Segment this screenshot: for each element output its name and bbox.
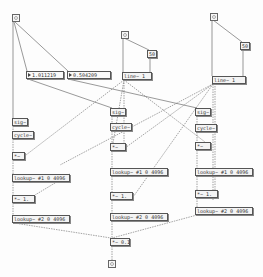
- lookup2-object-left[interactable]: lookup~ #2 0 4096: [12, 215, 70, 223]
- multiply-object-right[interactable]: *~: [195, 142, 211, 150]
- bang-icon: [123, 33, 127, 37]
- patch-cords: [0, 0, 263, 277]
- cycle-object-right[interactable]: cycle~: [195, 124, 217, 132]
- bang-right[interactable]: [210, 13, 218, 21]
- lookup1-object-middle[interactable]: lookup~ #1 0 4096: [110, 168, 168, 176]
- lookup2-object-middle[interactable]: lookup~ #2 0 4096: [110, 213, 168, 221]
- number-box-b-value: 0.504209: [73, 72, 97, 78]
- bang-left[interactable]: [12, 14, 20, 22]
- multiply-1-object-right[interactable]: *~ 1.: [195, 190, 218, 198]
- line-object-middle[interactable]: line~ 1: [122, 72, 152, 80]
- sig-object-right[interactable]: sig~: [195, 108, 211, 116]
- number-box-b[interactable]: 0.504209: [67, 71, 111, 79]
- gain-object[interactable]: *~ 0.1: [110, 238, 130, 246]
- lookup1-object-left[interactable]: lookup~ #1 0 4096: [12, 174, 70, 182]
- number-box-a-value: 1.011219: [32, 72, 56, 78]
- sig-object-middle[interactable]: sig~: [110, 108, 126, 116]
- message-50-middle[interactable]: 50: [147, 50, 157, 58]
- multiply-1-object-left[interactable]: *~ 1.: [12, 195, 35, 203]
- bang-output[interactable]: [108, 260, 116, 268]
- multiply-object-left[interactable]: *~: [12, 152, 25, 160]
- number-box-a[interactable]: 1.011219: [26, 71, 64, 79]
- message-50-right[interactable]: 50: [240, 42, 250, 50]
- lookup1-object-right[interactable]: lookup~ #1 0 4096: [195, 168, 253, 176]
- cycle-object-middle[interactable]: cycle~: [110, 123, 132, 131]
- lookup2-object-right[interactable]: lookup~ #2 0 4096: [195, 207, 253, 215]
- sig-object-left[interactable]: sig~: [12, 118, 28, 126]
- bang-icon: [110, 262, 114, 266]
- cycle-object-left[interactable]: cycle~: [12, 131, 34, 139]
- bang-icon: [212, 15, 216, 19]
- bang-middle[interactable]: [121, 31, 129, 39]
- number-arrow-icon: [28, 73, 31, 77]
- multiply-1-object-middle[interactable]: *~ 1.: [110, 192, 133, 200]
- multiply-object-middle[interactable]: *~: [110, 143, 126, 151]
- line-object-right[interactable]: line~ 1: [212, 76, 246, 84]
- number-arrow-icon: [69, 73, 72, 77]
- bang-icon: [14, 16, 18, 20]
